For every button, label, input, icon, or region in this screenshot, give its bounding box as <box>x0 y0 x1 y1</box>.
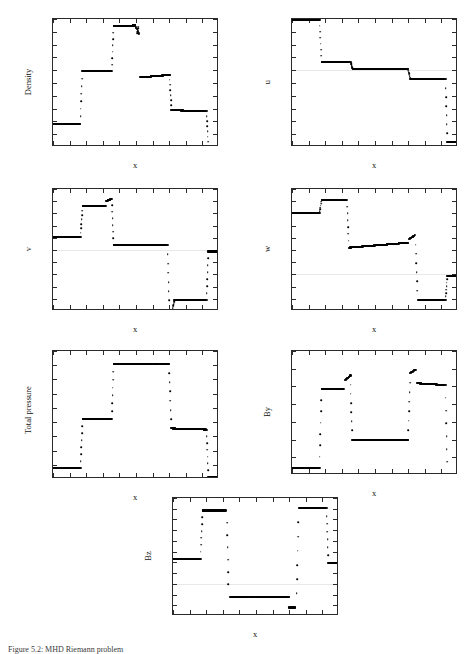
x-tick-total_pressure-9 <box>202 351 203 355</box>
transition-point <box>445 289 447 291</box>
x-tick-v-7 <box>169 189 170 193</box>
data-point <box>455 473 457 474</box>
y-tick-total_pressure-8 <box>53 365 57 366</box>
x-tick-by-8 <box>425 351 426 355</box>
y-axis-title-total_pressure: Total pressure <box>8 410 48 419</box>
x-tick-bz-4 <box>239 498 240 502</box>
y-axis-title-text-by: By <box>263 392 272 432</box>
transition-point <box>207 463 209 465</box>
data-point <box>111 418 113 420</box>
x-tick-density-0 <box>53 141 54 145</box>
transition-point <box>111 64 113 66</box>
transition-point <box>446 285 448 287</box>
x-tick-total_pressure-4 <box>119 473 120 477</box>
transition-point <box>320 43 322 45</box>
x-tick-density-2 <box>86 141 87 145</box>
x-axis-title-w: x <box>372 325 376 334</box>
y-tick-density-5 <box>213 83 217 84</box>
transition-point <box>326 515 328 517</box>
transition-point <box>445 292 447 294</box>
x-tick-u-4 <box>358 19 359 23</box>
transition-point <box>320 49 322 51</box>
transition-point <box>319 31 321 33</box>
x-tick-by-5 <box>375 469 376 473</box>
y-tick-density-1 <box>213 134 217 135</box>
x-tick-density-1 <box>70 19 71 23</box>
y-tick-v-3 <box>213 274 217 275</box>
data-point <box>446 473 448 474</box>
transition-point <box>173 301 175 303</box>
y-tick-v-1 <box>213 299 217 300</box>
y-axis-title-text-v: v <box>24 229 33 269</box>
x-axis-title-u: x <box>372 161 376 170</box>
x-tick-v-4 <box>119 189 120 193</box>
transition-point <box>111 411 113 413</box>
data-point <box>168 363 170 365</box>
transition-point <box>446 448 448 450</box>
transition-point <box>416 290 418 292</box>
transition-point <box>446 278 448 280</box>
x-tick-density-3 <box>103 19 104 23</box>
transition-point <box>351 430 353 432</box>
transition-point <box>320 399 322 401</box>
transition-point <box>348 240 350 242</box>
transition-point <box>112 51 114 53</box>
transition-point <box>347 219 349 221</box>
transition-point <box>172 307 174 309</box>
y-tick-u-3 <box>452 109 456 110</box>
x-tick-v-0 <box>53 305 54 309</box>
x-tick-v-9 <box>202 189 203 193</box>
y-tick-w-7 <box>292 226 296 227</box>
y-tick-total_pressure-5 <box>213 408 217 409</box>
transition-point <box>207 131 209 133</box>
transition-point <box>446 132 448 134</box>
x-tick-density-9 <box>202 141 203 145</box>
transition-point <box>113 371 115 373</box>
x-tick-v-8 <box>186 305 187 309</box>
data-point <box>407 439 409 441</box>
transition-point <box>207 265 209 267</box>
x-tick-w-4 <box>358 305 359 309</box>
x-tick-u-6 <box>392 19 393 23</box>
x-tick-w-8 <box>425 189 426 193</box>
x-tick-w-1 <box>309 189 310 193</box>
data-point <box>80 467 82 469</box>
y-tick-total_pressure-4 <box>53 422 57 423</box>
transition-point <box>206 435 208 437</box>
transition-point <box>445 96 447 98</box>
data-point <box>415 369 417 371</box>
y-tick-v-8 <box>213 213 217 214</box>
transition-point <box>167 272 169 274</box>
x-tick-density-2 <box>86 19 87 23</box>
x-tick-v-2 <box>86 189 87 193</box>
transition-point <box>297 536 299 538</box>
transition-point <box>81 78 83 80</box>
data-point <box>169 74 171 76</box>
x-tick-bz-6 <box>273 498 274 502</box>
transition-point <box>415 244 417 246</box>
transition-point <box>206 121 208 123</box>
x-tick-w-6 <box>392 189 393 193</box>
x-tick-v-5 <box>136 189 137 193</box>
y-tick-by-5 <box>292 386 296 387</box>
transition-point <box>416 281 418 283</box>
y-tick-by-5 <box>452 386 456 387</box>
data-point <box>217 250 218 252</box>
x-tick-by-7 <box>408 469 409 473</box>
y-tick-v-4 <box>213 262 217 263</box>
y-tick-by-4 <box>292 404 296 405</box>
y-tick-bz-7 <box>173 541 177 542</box>
x-tick-w-0 <box>292 189 293 193</box>
y-tick-w-7 <box>452 226 456 227</box>
plot-area-v: -2.5-2-1.5-1-0.500.511.522.500.10.20.30.… <box>52 188 218 310</box>
data-point <box>447 473 449 474</box>
data-point <box>454 473 456 474</box>
plot-area-bz: -1.5-1-0.500.511.522.533.5400.10.20.30.4… <box>172 497 338 615</box>
transition-point <box>297 522 299 524</box>
transition-point <box>346 206 348 208</box>
transition-point <box>207 469 209 471</box>
x-tick-bz-7 <box>289 498 290 502</box>
transition-point <box>81 210 83 212</box>
transition-point <box>319 211 321 213</box>
x-tick-bz-1 <box>190 610 191 614</box>
